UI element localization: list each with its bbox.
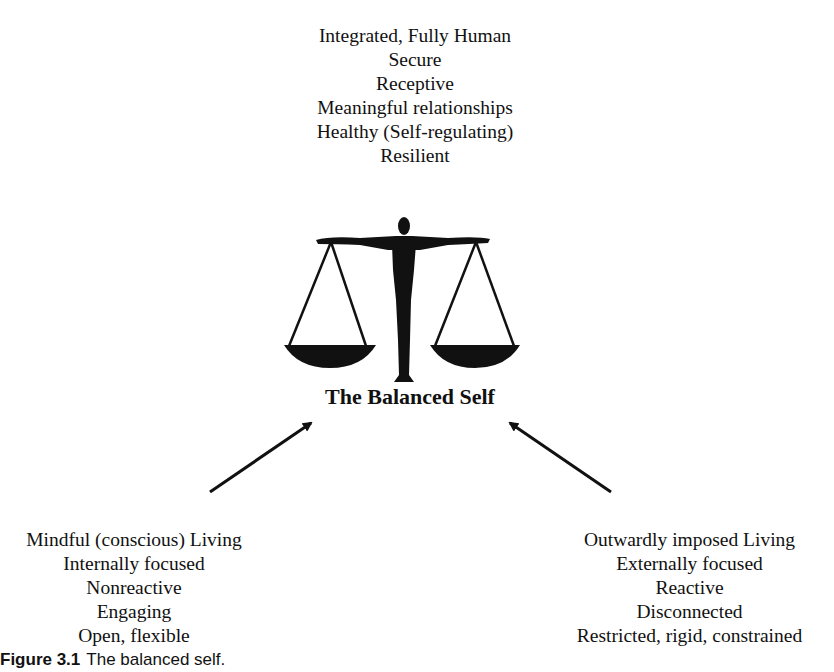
list-item: Mindful (conscious) Living: [0, 528, 268, 552]
list-item: Meaningful relationships: [250, 96, 580, 120]
left-arrow: [210, 423, 311, 492]
outwardly-imposed-living-list: Outwardly imposed Living Externally focu…: [545, 528, 834, 648]
list-item: Disconnected: [545, 600, 834, 624]
balance-scale-human-figure-icon: [284, 217, 520, 382]
list-item: Secure: [250, 48, 580, 72]
figure-caption-text: The balanced self.: [86, 650, 225, 669]
list-item: Healthy (Self-regulating): [250, 120, 580, 144]
list-item: Outwardly imposed Living: [545, 528, 834, 552]
list-item: Engaging: [0, 600, 268, 624]
outcome-qualities-list: Integrated, Fully Human Secure Receptive…: [250, 24, 580, 168]
list-item: Integrated, Fully Human: [250, 24, 580, 48]
balanced-self-title: The Balanced Self: [270, 384, 550, 410]
list-item: Receptive: [250, 72, 580, 96]
list-item: Reactive: [545, 576, 834, 600]
list-item: Internally focused: [0, 552, 268, 576]
figure-caption: Figure 3.1The balanced self.: [0, 650, 225, 670]
figure-label: Figure 3.1: [0, 650, 80, 669]
list-item: Restricted, rigid, constrained: [545, 624, 834, 648]
list-item: Open, flexible: [0, 624, 268, 648]
mindful-living-list: Mindful (conscious) Living Internally fo…: [0, 528, 268, 648]
list-item: Nonreactive: [0, 576, 268, 600]
list-item: Resilient: [250, 144, 580, 168]
right-arrow: [510, 423, 611, 492]
list-item: Externally focused: [545, 552, 834, 576]
